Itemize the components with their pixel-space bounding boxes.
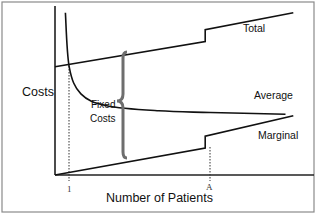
x-axis-label: Number of Patients (106, 191, 213, 205)
cost-curves-diagram: Costs Number of Patients Total Average M… (0, 0, 317, 216)
series-label-marginal: Marginal (258, 129, 298, 141)
fixed-costs-label-line2: Costs (90, 113, 116, 124)
y-axis-label: Costs (22, 85, 54, 99)
series-label-total: Total (243, 22, 265, 34)
series-label-average: Average (254, 89, 293, 101)
x-tick-label-a: A (206, 182, 213, 192)
fixed-costs-label-line1: Fixed (91, 99, 115, 110)
x-tick-label-1: 1 (67, 184, 72, 194)
frame-border (2, 2, 314, 212)
